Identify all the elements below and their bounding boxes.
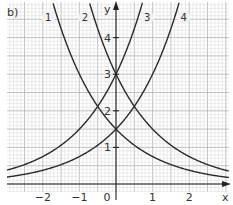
x-tick-label: 0 xyxy=(104,191,111,204)
curves xyxy=(7,3,229,178)
x-axis-arrow-icon xyxy=(222,181,231,187)
y-tick-label: 4 xyxy=(104,32,111,45)
curve-label-3: 3 xyxy=(144,12,150,23)
tick-labels: −2−10121234 xyxy=(35,32,193,204)
y-tick-label: 1 xyxy=(104,141,111,154)
x-tick-label: −1 xyxy=(71,191,87,204)
x-tick-label: −2 xyxy=(35,191,51,204)
exponential-function-plot: −2−10121234 1234 x y b) xyxy=(0,0,233,205)
y-axis-arrow-icon xyxy=(113,1,119,10)
x-tick-label: 1 xyxy=(149,191,156,204)
y-tick-label: 3 xyxy=(104,68,111,81)
grid xyxy=(7,2,229,192)
curve-label-4: 4 xyxy=(181,12,187,23)
curve-label-2: 2 xyxy=(82,12,88,23)
panel-label: b) xyxy=(7,6,18,19)
y-tick-label: 2 xyxy=(104,105,111,118)
curve-label-1: 1 xyxy=(45,12,51,23)
x-axis-label: x xyxy=(222,191,229,204)
y-axis-label: y xyxy=(104,3,111,16)
x-tick-label: 2 xyxy=(186,191,193,204)
